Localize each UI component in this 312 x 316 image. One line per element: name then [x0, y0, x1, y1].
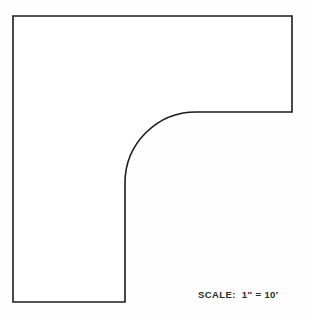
scale-value: 1″ = 10′ — [242, 289, 279, 300]
scale-label: SCALE: — [198, 289, 236, 300]
plan-drawing-svg — [0, 0, 312, 316]
l-shape-outline-path — [13, 16, 292, 302]
drawing-sheet: SCALE: 1″ = 10′ — [0, 0, 312, 316]
scale-annotation: SCALE: 1″ = 10′ — [198, 286, 308, 302]
